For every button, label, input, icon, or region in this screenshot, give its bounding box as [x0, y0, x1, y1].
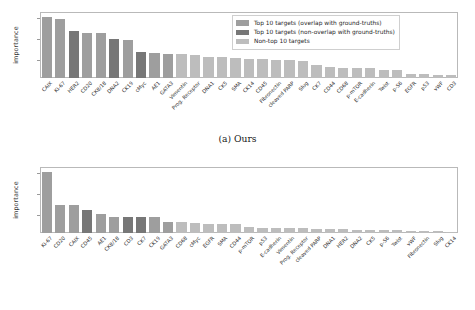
bar — [217, 224, 227, 233]
bar — [123, 40, 133, 78]
bar — [176, 222, 186, 233]
bar — [419, 74, 429, 78]
bar — [163, 222, 173, 233]
bar — [136, 52, 146, 78]
bar — [433, 231, 443, 233]
bar — [109, 39, 119, 78]
bar — [55, 205, 65, 233]
figure-root: importance CAIXKi-67HER2CD20CK8/18DNA2CK… — [0, 0, 475, 310]
bar — [284, 60, 294, 78]
bar — [190, 55, 200, 78]
bar — [311, 229, 321, 233]
x-axis-labels-a: CAIXKi-67HER2CD20CK8/18DNA2CK19cMycAE1GA… — [40, 80, 458, 130]
bar — [163, 54, 173, 78]
bar — [284, 228, 294, 233]
bar — [55, 19, 65, 78]
bar — [311, 65, 321, 78]
bar — [176, 54, 186, 78]
bar — [69, 31, 79, 78]
bar — [271, 60, 281, 78]
bar — [217, 57, 227, 78]
legend-label-nonoverlap: Top 10 targets (non-overlap with ground-… — [254, 28, 395, 37]
x-axis-labels-b: Ki-67CD20CAIXCD45AE1CK8/18CD3CK7CK19GATA… — [40, 235, 458, 285]
bar — [352, 68, 362, 78]
bar — [406, 231, 416, 233]
bar — [203, 224, 213, 233]
bar — [230, 224, 240, 233]
legend-label-nontop: Non-top 10 targets — [254, 37, 310, 46]
bar — [69, 205, 79, 233]
legend-item-nonoverlap: Top 10 targets (non-overlap with ground-… — [236, 28, 395, 37]
bar — [203, 57, 213, 78]
bar — [392, 230, 402, 233]
caption-a: (a) Ours — [0, 133, 475, 144]
bar — [109, 217, 119, 233]
bar — [257, 59, 267, 78]
bar — [82, 210, 92, 233]
y-axis-label-b: importance — [12, 167, 25, 233]
bar — [298, 228, 308, 233]
bar — [190, 223, 200, 233]
bar — [419, 231, 429, 233]
bar — [42, 17, 52, 78]
bar — [338, 68, 348, 78]
bar — [298, 61, 308, 78]
bar — [365, 68, 375, 78]
y-axis-label-a: importance — [12, 12, 25, 78]
bar — [230, 58, 240, 78]
bar — [82, 33, 92, 78]
bar — [257, 228, 267, 233]
legend-swatch-overlap-icon — [236, 20, 249, 25]
bar — [392, 70, 402, 78]
bar — [406, 74, 416, 78]
bar — [352, 230, 362, 233]
bar — [96, 214, 106, 233]
plot-area-b: importance — [40, 167, 458, 233]
bar — [136, 217, 146, 233]
bar — [338, 229, 348, 233]
bar — [365, 230, 375, 233]
bar — [42, 172, 52, 233]
bar — [446, 232, 456, 233]
bar — [325, 229, 335, 233]
panel-ground-truth: importance Ki-67CD20CAIXCD45AE1CK8/18CD3… — [0, 155, 475, 310]
panel-ours: importance CAIXKi-67HER2CD20CK8/18DNA2CK… — [0, 0, 475, 155]
legend-label-overlap: Top 10 targets (overlap with ground-trut… — [254, 19, 382, 28]
bar — [149, 53, 159, 78]
legend-item-overlap: Top 10 targets (overlap with ground-trut… — [236, 19, 395, 28]
legend-a: Top 10 targets (overlap with ground-trut… — [232, 15, 400, 50]
bar — [379, 70, 389, 78]
bar — [433, 75, 443, 78]
bar — [446, 75, 456, 78]
legend-swatch-nonoverlap-icon — [236, 30, 249, 35]
bar — [123, 217, 133, 233]
bar — [379, 230, 389, 233]
bar — [325, 67, 335, 78]
bar — [244, 59, 254, 78]
bar — [271, 228, 281, 233]
bar — [244, 227, 254, 233]
legend-swatch-nontop-icon — [236, 39, 249, 44]
bar — [96, 33, 106, 78]
bar — [149, 217, 159, 233]
legend-item-nontop: Non-top 10 targets — [236, 37, 395, 46]
bar-series-b — [40, 167, 458, 233]
